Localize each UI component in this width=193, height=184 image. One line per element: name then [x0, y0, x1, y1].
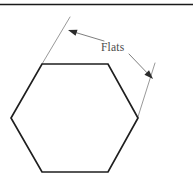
flats-dimension-label: Flats — [101, 41, 125, 53]
figure-container: Flats — [0, 0, 193, 184]
hexagon-flats-diagram-svg: Flats — [0, 0, 193, 184]
